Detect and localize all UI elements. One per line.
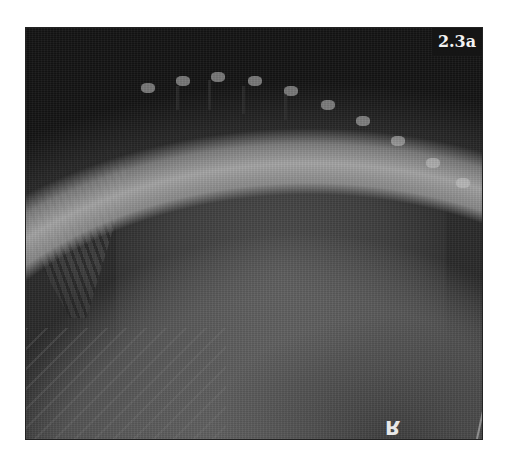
grain-overlay (26, 28, 482, 439)
radiograph-image: 2.3a R (25, 27, 483, 440)
side-marker: R (385, 418, 400, 438)
figure-label: 2.3a (432, 28, 482, 56)
